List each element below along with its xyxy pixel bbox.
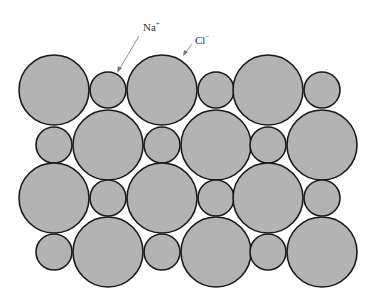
na-ion: [250, 234, 286, 270]
na-arrow: [119, 36, 139, 70]
cl-ion: [19, 55, 89, 125]
na-ion: [144, 234, 180, 270]
nacl-lattice: [0, 0, 376, 301]
cl-ion: [127, 163, 197, 233]
cl-arrowhead: [183, 50, 188, 56]
na-ion: [36, 127, 72, 163]
cl-ion: [181, 217, 251, 287]
na-ion: [198, 180, 234, 216]
na-ion: [198, 72, 234, 108]
cl-label: Cl−: [195, 33, 209, 46]
cl-ion: [73, 110, 143, 180]
na-ion: [304, 72, 340, 108]
na-ion: [250, 127, 286, 163]
na-arrowhead: [117, 66, 122, 73]
cl-ion: [287, 217, 357, 287]
na-ion: [36, 234, 72, 270]
na-ion: [90, 180, 126, 216]
cl-ion: [233, 55, 303, 125]
cl-ion: [127, 55, 197, 125]
na-ion: [304, 180, 340, 216]
ion-group: [19, 55, 357, 287]
na-ion: [144, 127, 180, 163]
cl-ion: [287, 110, 357, 180]
na-ion: [90, 72, 126, 108]
cl-ion: [19, 163, 89, 233]
cl-ion: [73, 217, 143, 287]
na-label: Na+: [143, 20, 160, 33]
cl-ion: [181, 110, 251, 180]
cl-ion: [233, 163, 303, 233]
